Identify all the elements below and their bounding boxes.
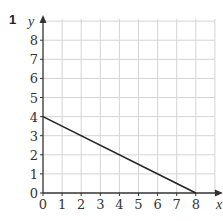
line-chart: 012345678012345678xy [0, 0, 223, 221]
y-tick-label: 6 [30, 71, 38, 86]
y-tick-label: 8 [30, 33, 38, 48]
y-tick-label: 3 [30, 129, 38, 144]
y-axis-label: y [26, 14, 35, 29]
x-tick-label: 7 [173, 197, 181, 212]
x-axis-label: x [215, 197, 223, 212]
x-tick-label: 1 [58, 197, 66, 212]
x-tick-label: 5 [134, 197, 142, 212]
x-axis-arrow-icon [215, 190, 223, 197]
x-tick-label: 4 [115, 197, 123, 212]
y-tick-label: 1 [30, 167, 38, 182]
x-tick-label: 6 [153, 197, 161, 212]
y-tick-label: 7 [30, 52, 38, 67]
y-tick-label: 0 [30, 186, 38, 201]
y-tick-label: 4 [30, 110, 38, 125]
x-tick-label: 0 [39, 197, 47, 212]
y-tick-label: 2 [30, 148, 38, 163]
x-tick-label: 8 [192, 197, 200, 212]
y-axis-arrow-icon [40, 15, 47, 23]
y-tick-label: 5 [30, 91, 38, 106]
x-tick-label: 2 [77, 197, 85, 212]
x-tick-label: 3 [96, 197, 104, 212]
